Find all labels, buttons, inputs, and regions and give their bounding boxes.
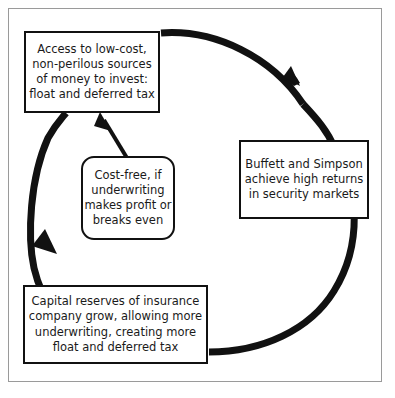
- node-cost-free-underwriting[interactable]: Cost-free, if underwriting makes profit …: [81, 156, 175, 240]
- diagram-page: Access to low-cost, non-perilous sources…: [0, 0, 395, 398]
- node-returns-label: Buffett and Simpson achieve high returns…: [245, 157, 363, 203]
- node-buffett-simpson-returns[interactable]: Buffett and Simpson achieve high returns…: [239, 140, 369, 219]
- node-access-label: Access to low-cost, non-perilous sources…: [29, 42, 155, 103]
- node-costfree-label: Cost-free, if underwriting makes profit …: [84, 168, 171, 229]
- node-access-to-low-cost[interactable]: Access to low-cost, non-perilous sources…: [24, 31, 160, 113]
- arrowhead-costfree-to-access: [94, 112, 111, 131]
- arc-access-to-returns: [161, 33, 303, 104]
- arrowhead-capital-to-access: [32, 229, 57, 254]
- node-capital-label: Capital reserves of insurance company gr…: [29, 294, 202, 355]
- node-capital-reserves[interactable]: Capital reserves of insurance company gr…: [23, 285, 208, 364]
